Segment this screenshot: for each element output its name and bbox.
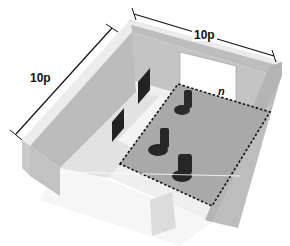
dimension-tick [10, 130, 22, 140]
dimension-tick [106, 24, 118, 32]
room-illustration [0, 0, 290, 246]
room-diagram: 10p 10p n [0, 0, 290, 246]
dimension-label-left: 10p [28, 72, 53, 84]
dimension-label-top: 10p [192, 29, 217, 41]
left-wall-end [22, 140, 30, 176]
zone-label-n: n [218, 86, 225, 97]
